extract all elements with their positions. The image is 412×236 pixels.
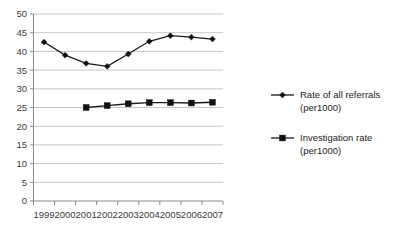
data-point-marker	[62, 52, 68, 58]
y-axis-tick-label: 0	[22, 195, 27, 206]
data-point-marker	[83, 60, 89, 66]
legend-label-line2: (per1000)	[300, 145, 341, 156]
y-axis-tick-label: 15	[16, 139, 27, 150]
x-axis-tick-label: 2002	[97, 209, 118, 220]
gridlines	[34, 14, 224, 182]
x-axis-tick-label: 2007	[202, 209, 223, 220]
legend-marker-diamond-icon	[280, 92, 286, 98]
data-point-marker	[104, 63, 110, 69]
legend-label-line1: Investigation rate	[300, 132, 372, 143]
data-point-marker	[167, 33, 173, 39]
x-axis-tick-label: 2005	[160, 209, 181, 220]
y-axis-tick-label: 40	[16, 46, 27, 57]
x-axis-tick-label: 2003	[118, 209, 139, 220]
y-axis-tick-labels: 05101520253035404550	[16, 8, 27, 206]
data-series-layer	[41, 33, 215, 111]
x-axis-tick-label: 2001	[76, 209, 97, 220]
legend-label-line1: Rate of all referrals	[300, 89, 381, 100]
data-point-marker	[167, 100, 173, 106]
data-point-marker	[146, 38, 152, 44]
x-axis-tick-label: 2006	[181, 209, 202, 220]
data-point-marker	[189, 100, 195, 106]
legend-entry-2: Investigation rate(per1000)	[271, 132, 372, 156]
x-axis-tick-labels: 199920002001200220032004200520062007	[33, 209, 223, 220]
y-axis-tick-label: 50	[16, 8, 27, 19]
legend-entry-1: Rate of all referrals(per1000)	[271, 89, 381, 113]
data-point-marker	[125, 101, 131, 107]
data-point-marker	[210, 99, 216, 105]
series-2	[83, 99, 215, 110]
x-axis-tick-label: 2000	[55, 209, 76, 220]
y-axis-tick-label: 25	[16, 102, 27, 113]
data-point-marker	[189, 34, 195, 40]
x-axis-tick-label: 2004	[139, 209, 160, 220]
data-point-marker	[125, 51, 131, 57]
data-point-marker	[210, 36, 216, 42]
y-axis-tick-label: 45	[16, 27, 27, 38]
data-point-marker	[83, 105, 89, 111]
y-axis-tick-label: 20	[16, 121, 27, 132]
data-point-marker	[146, 100, 152, 106]
x-axis-tick-marks	[34, 201, 224, 205]
chart-legend: Rate of all referrals(per1000)Investigat…	[271, 89, 381, 156]
data-point-marker	[41, 39, 47, 45]
x-axis-tick-label: 1999	[33, 209, 54, 220]
legend-marker-square-icon	[280, 135, 286, 141]
line-chart: 05101520253035404550 1999200020012002200…	[0, 0, 412, 236]
y-axis-tick-label: 30	[16, 83, 27, 94]
y-axis-tick-label: 10	[16, 158, 27, 169]
y-axis-tick-label: 35	[16, 65, 27, 76]
y-axis-tick-label: 5	[22, 177, 27, 188]
legend-label-line2: (per1000)	[300, 102, 341, 113]
data-point-marker	[104, 103, 110, 109]
chart-container: 05101520253035404550 1999200020012002200…	[0, 0, 412, 236]
